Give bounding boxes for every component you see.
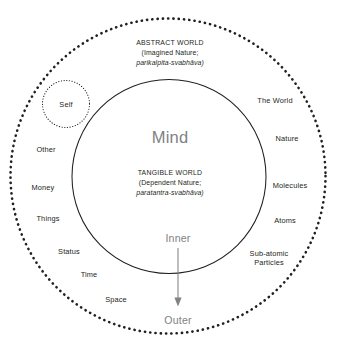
label-sub-atomic-particles-line1: Sub-atomic: [237, 249, 301, 258]
abstract-world-line1: ABSTRACT WORLD: [136, 38, 204, 48]
label-space: Space: [105, 295, 127, 304]
diagram-canvas: ABSTRACT WORLD (Imagined Nature; parikal…: [0, 0, 342, 350]
inner-outer-arrow: [174, 248, 181, 307]
abstract-world-line2: (Imagined Nature;: [136, 48, 204, 58]
label-other: Other: [36, 145, 55, 154]
label-status: Status: [58, 247, 80, 256]
label-molecules: Molecules: [273, 181, 308, 190]
outer-label: Outer: [164, 314, 192, 326]
tangible-world-line1: TANGIBLE WORLD: [136, 168, 204, 178]
abstract-world-line3: parikalpita-svabhāva): [136, 58, 204, 68]
abstract-world-label: ABSTRACT WORLD (Imagined Nature; parikal…: [136, 38, 204, 67]
label-time: Time: [81, 270, 98, 279]
tangible-world-line2: (Dependent Nature;: [136, 178, 204, 188]
label-the-world: The World: [257, 96, 292, 105]
tangible-world-line3: paratantra-svabhāva): [136, 188, 204, 198]
self-label: Self: [59, 100, 72, 109]
label-nature: Nature: [275, 134, 298, 143]
label-sub-atomic-particles: Sub-atomic Particles: [237, 249, 301, 268]
mind-label: Mind: [152, 128, 189, 147]
label-things: Things: [36, 214, 59, 223]
tangible-world-label: TANGIBLE WORLD (Dependent Nature; parata…: [136, 168, 204, 197]
label-atoms: Atoms: [274, 216, 296, 225]
label-sub-atomic-particles-line2: Particles: [237, 258, 301, 267]
label-money: Money: [32, 183, 55, 192]
inner-label: Inner: [165, 232, 190, 244]
